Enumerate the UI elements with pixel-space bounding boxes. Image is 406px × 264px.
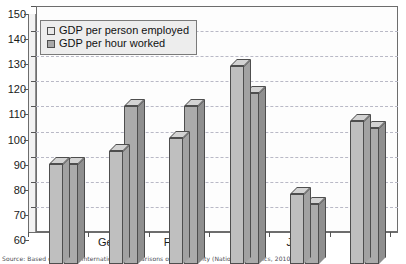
bar-face-front bbox=[230, 66, 244, 264]
y-axis-tick-back-150 bbox=[31, 6, 36, 7]
x-axis-tick-end bbox=[390, 232, 391, 237]
gridline-80 bbox=[36, 182, 398, 183]
bar-usa-series0 bbox=[230, 66, 244, 264]
bar-face-front bbox=[350, 121, 364, 264]
gridline-110 bbox=[36, 106, 398, 107]
bar-face-side bbox=[319, 197, 326, 264]
gridline-100 bbox=[36, 132, 398, 133]
bar-face-front bbox=[169, 138, 183, 264]
bar-chart: 15014013012011010090807060 UKGermanyFran… bbox=[0, 0, 406, 264]
bar-face-front bbox=[49, 164, 63, 264]
bar-face-side bbox=[244, 59, 251, 264]
bar-face-front bbox=[109, 151, 123, 264]
bar-face-side bbox=[364, 114, 371, 264]
y-axis-line bbox=[28, 14, 29, 233]
y-axis-tick-back-120 bbox=[31, 81, 36, 82]
y-axis-tick-label-70: 70 bbox=[0, 210, 26, 220]
bar-g7-series0 bbox=[350, 121, 364, 264]
y-axis-tick-label-60: 60 bbox=[0, 235, 26, 245]
y-axis-tick-back-140 bbox=[31, 31, 36, 32]
bar-face-side bbox=[123, 144, 130, 264]
chart-legend: GDP per person employed GDP per hour wor… bbox=[40, 20, 197, 55]
x-axis-tick-5 bbox=[330, 232, 331, 237]
gridline-130 bbox=[36, 56, 398, 57]
legend-swatch-icon bbox=[47, 27, 55, 35]
y-axis-tick-label-90: 90 bbox=[0, 160, 26, 170]
y-axis-tick-back-70 bbox=[31, 207, 36, 208]
gridline-120 bbox=[36, 81, 398, 82]
y-axis-tick-back-80 bbox=[31, 182, 36, 183]
x-axis-tick-4 bbox=[269, 232, 270, 237]
bar-face-side bbox=[259, 86, 266, 264]
bar-face-side bbox=[183, 131, 190, 264]
y-axis-tick-60 bbox=[24, 240, 29, 241]
legend-item-1: GDP per hour worked bbox=[47, 37, 189, 50]
gridline-150 bbox=[36, 6, 398, 7]
bar-germany-series0 bbox=[109, 151, 123, 264]
y-axis-tick-label-130: 130 bbox=[0, 59, 26, 69]
bar-japan-series0 bbox=[290, 194, 304, 264]
bar-face-side bbox=[198, 99, 205, 264]
bar-face-side bbox=[304, 187, 311, 264]
x-axis-tick-3 bbox=[209, 232, 210, 237]
y-axis-tick-label-110: 110 bbox=[0, 109, 26, 119]
bar-france-series0 bbox=[169, 138, 183, 264]
x-axis-tick-0 bbox=[28, 232, 29, 237]
legend-item-0: GDP per person employed bbox=[47, 24, 189, 37]
y-axis-tick-label-140: 140 bbox=[0, 34, 26, 44]
y-axis-tick-label-100: 100 bbox=[0, 135, 26, 145]
gridline-90 bbox=[36, 157, 398, 158]
y-axis-tick-label-80: 80 bbox=[0, 185, 26, 195]
bar-face-side bbox=[379, 121, 386, 264]
legend-label-0: GDP per person employed bbox=[59, 24, 189, 37]
x-axis-tick-1 bbox=[88, 232, 89, 237]
gridline-70 bbox=[36, 207, 398, 208]
bar-face-front bbox=[290, 194, 304, 264]
y-axis-tick-back-90 bbox=[31, 157, 36, 158]
y-axis-tick-back-110 bbox=[31, 106, 36, 107]
y-axis-tick-label-150: 150 bbox=[0, 9, 26, 19]
plot-left-wall bbox=[28, 14, 36, 232]
x-axis-tick-2 bbox=[149, 232, 150, 237]
bar-face-side bbox=[138, 99, 145, 264]
legend-swatch-icon bbox=[47, 40, 55, 48]
bar-uk-series0 bbox=[49, 164, 63, 264]
y-axis-tick-back-100 bbox=[31, 132, 36, 133]
y-axis-tick-back-130 bbox=[31, 56, 36, 57]
y-axis-tick-label-120: 120 bbox=[0, 84, 26, 94]
bar-face-side bbox=[63, 157, 70, 264]
bar-face-side bbox=[78, 157, 85, 264]
legend-label-1: GDP per hour worked bbox=[59, 37, 165, 50]
